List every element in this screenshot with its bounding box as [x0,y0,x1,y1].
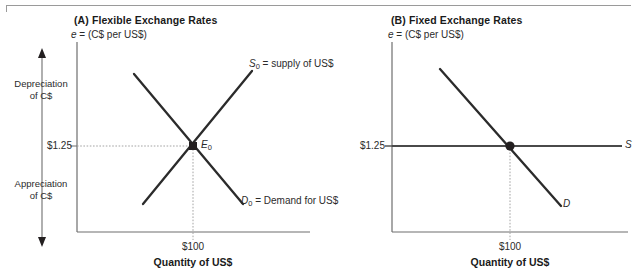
panel-a-side-arrow-head-down [38,237,46,247]
panel-a-demand-curve-label-text: = Demand for US$ [252,195,338,206]
appreciation-annotation: Appreciation of C$ [2,178,80,202]
panel-a-demand-curve-label-subscript: 0 [248,199,252,208]
panel-a-y-axis-label-units: = (C$ per US$) [77,29,147,40]
panel-a-demand-curve-label: D0 = Demand for US$ [241,195,338,206]
panel-a-equilibrium-marker [189,142,197,150]
depreciation-annotation-line-2: of C$ [2,90,80,102]
panel-b-title: (B) Fixed Exchange Rates [391,14,522,26]
exchange-rate-figure: (A) Flexible Exchange Rates (B) Fixed Ex… [0,0,635,275]
panel-b-y-axis-label-units: = (C$ per US$) [394,29,464,40]
panel-a-supply-curve-label-text: = supply of US$ [260,58,334,69]
panel-a-equilibrium-label-subscript: 0 [208,143,212,152]
panel-a-supply-curve-label: S0 = supply of US$ [249,58,334,69]
panel-a-supply-curve [143,71,252,204]
panel-b-demand-curve-label: D [563,198,570,209]
panel-a-supply-curve-label-symbol: S [249,58,256,69]
panel-a-y-axis-label: e = (C$ per US$) [71,29,147,40]
panel-b-y-tick-label: $1.25 [337,140,385,151]
panel-b-y-axis-label: e = (C$ per US$) [388,29,464,40]
depreciation-annotation: Depreciation of C$ [2,78,80,102]
panel-a-x-axis-title: Quantity of US$ [133,256,253,268]
panel-a-equilibrium-label-symbol: E [201,139,208,150]
panel-b-supply-line-label-symbol: S [625,139,632,150]
panel-b-demand-curve [440,69,561,206]
panel-a-y-tick-label: $1.25 [22,140,72,151]
panel-a-demand-curve [134,74,243,204]
panel-b-demand-curve-label-symbol: D [563,198,570,209]
panel-a-guide-lines [70,146,193,240]
panel-a-supply-curve-label-subscript: 0 [256,62,260,71]
panel-b-x-axis-title: Quantity of US$ [450,256,570,268]
panel-b-x-tick-label: $100 [470,241,550,252]
panel-b-supply-line-label: S [625,139,632,150]
panel-b-axes [392,42,628,232]
panel-a-title: (A) Flexible Exchange Rates [74,14,217,26]
appreciation-annotation-line-1: Appreciation [2,178,80,190]
depreciation-annotation-line-1: Depreciation [2,78,80,90]
panel-b-equilibrium-marker [505,141,514,150]
panel-a-x-tick-label: $100 [153,241,233,252]
panel-a-equilibrium-label: E0 [201,139,212,150]
appreciation-annotation-line-2: of C$ [2,190,80,202]
figure-vector-canvas [0,0,635,275]
panel-a-side-arrow-head-up [38,48,46,58]
